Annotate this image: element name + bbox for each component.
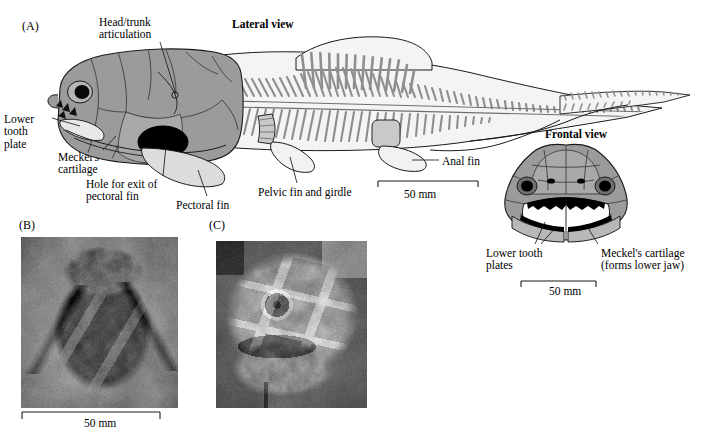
frontal-eye-right — [599, 180, 611, 191]
head-trunk-articulation-joint — [158, 72, 178, 114]
dermal-ossicle-row — [140, 101, 232, 107]
label-frontal-lower-tooth-plates: Lower tooth plates — [486, 247, 543, 272]
lateral-view-title: Lateral view — [232, 18, 294, 30]
label-pectoral-fin: Pectoral fin — [176, 199, 229, 211]
lateral-line-ossicles — [114, 100, 134, 104]
fossil-photo-skull — [216, 241, 367, 408]
anal-fin-shape — [372, 120, 426, 171]
head-shield — [48, 49, 243, 165]
label-head-trunk-articulation: Head/trunk articulation — [99, 16, 151, 41]
vertebral-column — [140, 40, 650, 141]
panel-label-c: (C) — [209, 219, 225, 232]
panel-label-a: (A) — [22, 20, 39, 33]
hole-for-exit-of-pectoral-fin-shape — [138, 126, 188, 158]
vertebral-centra — [196, 100, 650, 117]
frontal-lower-tooth-plate-left — [520, 215, 564, 232]
label-anal-fin: Anal fin — [442, 155, 480, 167]
panel-label-b: (B) — [19, 219, 35, 232]
scale-label-frontal: 50 mm — [549, 285, 581, 297]
figure-root: (A) (B) (C) Lateral view Frontal view He… — [0, 0, 709, 442]
frontal-upper-tooth-plate — [527, 197, 605, 210]
lower-tooth-plate-shape — [60, 119, 104, 140]
label-frontal-meckels-cartilage: Meckel's cartilage (forms lower jaw) — [601, 247, 685, 272]
frontal-lower-tooth-plate-right — [568, 215, 612, 232]
dorsal-fin-base — [296, 37, 432, 70]
frontal-eye-left — [521, 180, 533, 191]
scale-bar-lateral — [378, 181, 478, 187]
pelvic-fin-and-girdle-shape — [258, 114, 315, 172]
frontal-view-title: Frontal view — [545, 128, 607, 140]
caudal-tail — [560, 91, 690, 114]
lateral-teeth — [56, 100, 77, 119]
leader-lines-lateral — [52, 42, 439, 196]
frontal-view-head — [505, 144, 627, 242]
eye — [75, 85, 90, 99]
label-pelvic-fin-and-girdle: Pelvic fin and girdle — [258, 186, 352, 198]
scale-label-lateral: 50 mm — [404, 188, 436, 200]
label-meckels-cartilage: Meckel's cartilage — [58, 151, 99, 176]
label-hole-for-exit-of-pectoral-fin: Hole for exit of pectoral fin — [86, 178, 157, 203]
leader-lines-frontal — [535, 222, 598, 244]
fossil-photo-dorsal — [21, 237, 178, 408]
scale-label-panel-b: 50 mm — [84, 417, 116, 429]
label-lower-tooth-plate: Lower tooth plate — [4, 113, 34, 150]
